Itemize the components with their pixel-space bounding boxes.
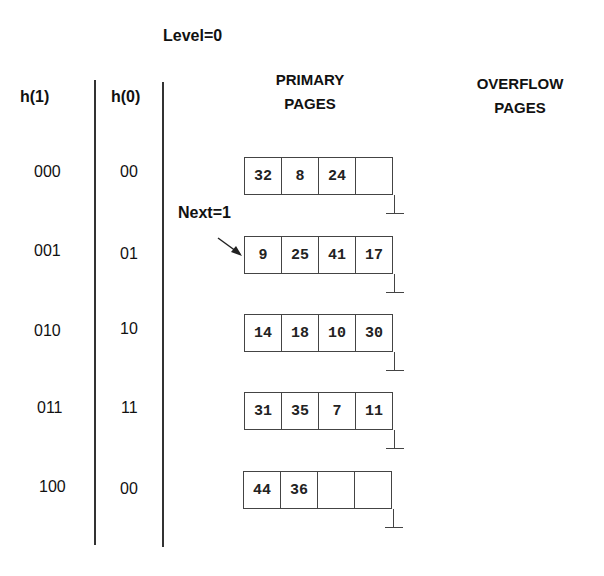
page-cell: [318, 472, 355, 508]
overflow-pages-header: OVERFLOW PAGES: [460, 72, 580, 120]
page-cell: 25: [282, 237, 319, 273]
row-h0: 01: [120, 245, 138, 263]
overflow-pointer-stub: [394, 352, 395, 370]
overflow-pointer-stub: [394, 195, 395, 213]
overflow-pointer-stub: [394, 430, 395, 448]
page-cell: 11: [356, 393, 392, 429]
overflow-header-line2: PAGES: [460, 96, 580, 120]
row-h1: 001: [34, 242, 61, 260]
overflow-pointer-stub: [394, 274, 395, 292]
row-h0: 11: [121, 399, 138, 417]
row-h1: 011: [37, 399, 63, 417]
primary-pages-header: PRIMARY PAGES: [250, 68, 370, 116]
null-pointer-icon: [386, 370, 404, 371]
page-cell: 24: [319, 158, 356, 194]
bucket-page: 14 18 10 30: [244, 314, 393, 352]
page-cell: [356, 158, 392, 194]
page-cell: [355, 472, 391, 508]
page-cell: 14: [245, 315, 282, 351]
page-cell: 8: [282, 158, 319, 194]
null-pointer-icon: [386, 213, 404, 214]
page-cell: 7: [319, 393, 356, 429]
h0-header: h(0): [111, 88, 140, 106]
bucket-page: 32 8 24: [244, 157, 393, 195]
page-cell: 41: [319, 237, 356, 273]
null-pointer-icon: [385, 527, 403, 528]
row-h1: 100: [39, 478, 66, 496]
bucket-page: 9 25 41 17: [244, 236, 393, 274]
page-cell: 35: [282, 393, 319, 429]
primary-header-line1: PRIMARY: [250, 68, 370, 92]
next-label: Next=1: [178, 204, 231, 222]
page-cell: 44: [244, 472, 281, 508]
bucket-page: 44 36: [243, 471, 392, 509]
level-label: Level=0: [163, 27, 222, 45]
page-cell: 17: [356, 237, 392, 273]
page-cell: 31: [245, 393, 282, 429]
row-h1: 000: [34, 163, 61, 181]
page-cell: 18: [282, 315, 319, 351]
page-cell: 9: [245, 237, 282, 273]
page-cell: 36: [281, 472, 318, 508]
divider-h1-h0-full: [94, 80, 96, 545]
primary-header-line2: PAGES: [250, 92, 370, 116]
row-h1: 010: [34, 322, 61, 340]
overflow-pointer-stub: [393, 509, 394, 527]
divider-h0-pages: [162, 82, 164, 547]
page-cell: 10: [319, 315, 356, 351]
row-h0: 10: [120, 320, 138, 338]
null-pointer-icon: [386, 292, 404, 293]
bucket-page: 31 35 7 11: [244, 392, 393, 430]
h1-header: h(1): [20, 88, 49, 106]
overflow-header-line1: OVERFLOW: [460, 72, 580, 96]
next-arrow-icon: [216, 236, 246, 258]
null-pointer-icon: [386, 448, 404, 449]
row-h0: 00: [120, 480, 138, 498]
page-cell: 30: [356, 315, 392, 351]
row-h0: 00: [120, 163, 138, 181]
page-cell: 32: [245, 158, 282, 194]
